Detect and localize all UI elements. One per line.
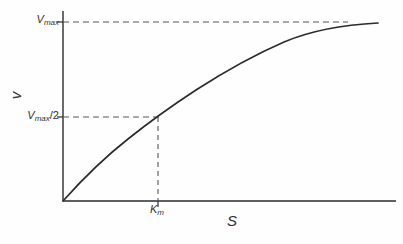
- y-tick-label-vmax-half: Vmax/2: [27, 110, 59, 123]
- x-tick-label-km: Km: [150, 204, 164, 217]
- vmax-half-subscript: max: [35, 114, 50, 123]
- km-subscript: m: [157, 208, 164, 217]
- plot-canvas: [0, 0, 403, 244]
- vmax-half-suffix: /2: [50, 109, 59, 121]
- vmax-subscript: max: [44, 18, 59, 27]
- michaelis-menten-figure: v S Vmax Vmax/2 Km: [0, 0, 403, 244]
- michaelis-menten-curve: [63, 23, 378, 201]
- y-axis-label: v: [8, 92, 23, 100]
- y-tick-label-vmax: Vmax: [37, 14, 59, 27]
- vmax-half-symbol: V: [27, 109, 34, 121]
- x-axis-label: S: [227, 213, 237, 228]
- vmax-symbol: V: [37, 13, 44, 25]
